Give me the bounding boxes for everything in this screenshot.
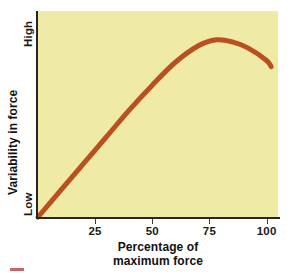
x-axis-tick-label-25: 25: [75, 225, 115, 237]
x-axis-tick-75: [209, 219, 210, 224]
plot-area: [38, 11, 278, 217]
y-axis-title: Variability in force: [6, 90, 20, 195]
y-axis-high-label: High: [22, 21, 34, 47]
x-axis-tick-100: [267, 219, 268, 224]
x-axis-title: Percentage of maximum force: [38, 240, 278, 268]
x-axis-tick-25: [95, 219, 96, 224]
data-curve-path: [38, 40, 271, 217]
x-axis-tick-50: [152, 219, 153, 224]
x-axis-line: [36, 217, 280, 219]
y-axis-line: [36, 11, 38, 219]
x-axis-title-line-1: Percentage of: [38, 240, 278, 254]
x-axis-tick-label-100: 100: [247, 225, 287, 237]
y-axis-low-label: Low: [22, 192, 34, 216]
x-axis-title-line-2: maximum force: [38, 254, 278, 268]
x-axis-tick-label-75: 75: [189, 225, 229, 237]
x-axis-tick-label-50: 50: [132, 225, 172, 237]
curve-svg: [38, 11, 278, 217]
caption-marker: [10, 268, 24, 271]
figure-container: 255075100 High Low Variability in force …: [0, 0, 300, 275]
